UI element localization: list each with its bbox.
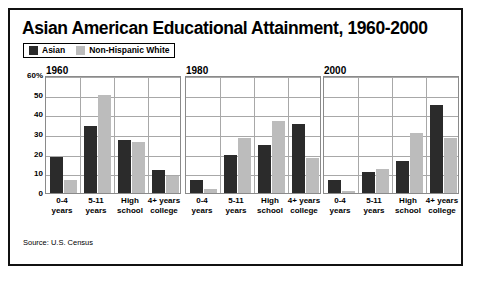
gridline-horizontal <box>46 156 180 157</box>
bar-2000-non-hispanic-white-3 <box>444 138 457 193</box>
gridline-vertical <box>288 77 289 193</box>
y-axis-tick: 50 <box>34 92 43 100</box>
x-axis-labels: 0-4years5-11yearsHighschool4+ yearscolle… <box>323 196 459 220</box>
bar-2000-asian-2 <box>396 161 409 193</box>
gridline-vertical <box>114 77 115 193</box>
y-axis-tick: 20 <box>34 151 43 159</box>
gridline-horizontal <box>46 77 180 78</box>
x-axis-tick-label: 4+ yearscollege <box>422 196 462 215</box>
gridline-vertical <box>220 77 221 193</box>
chart-panel-1960: 19600-4years5-11yearsHighschool4+ yearsc… <box>45 66 181 231</box>
x-axis-labels: 0-4years5-11yearsHighschool4+ yearscolle… <box>45 196 181 220</box>
plot-area <box>323 76 459 194</box>
y-axis-tick: 10 <box>34 170 43 178</box>
gridline-horizontal <box>324 77 458 78</box>
bar-1980-asian-2 <box>258 145 271 193</box>
legend-label: Asian <box>42 46 65 55</box>
x-axis-tick-label: 4+ yearscollege <box>144 196 184 215</box>
bar-1980-non-hispanic-white-3 <box>306 158 319 193</box>
y-axis-tick: 40 <box>34 111 43 119</box>
bar-1960-asian-3 <box>152 170 165 193</box>
gridline-horizontal <box>186 97 320 98</box>
gridline-horizontal <box>186 116 320 117</box>
gridline-vertical <box>392 77 393 193</box>
bar-1960-non-hispanic-white-3 <box>166 176 179 193</box>
y-axis-tick: 30 <box>34 131 43 139</box>
chart-panel-1980: 19800-4years5-11yearsHighschool4+ yearsc… <box>185 66 321 231</box>
bar-1980-asian-3 <box>292 124 305 193</box>
bar-1960-non-hispanic-white-1 <box>98 95 111 193</box>
bar-1960-non-hispanic-white-2 <box>132 142 145 193</box>
legend-entry: Non-Hispanic White <box>76 46 169 55</box>
bar-1980-non-hispanic-white-1 <box>238 138 251 193</box>
gridline-vertical <box>80 77 81 193</box>
chart-panels: 60%50403020100 19600-4years5-11yearsHigh… <box>23 66 453 231</box>
chart-legend: AsianNon-Hispanic White <box>23 43 175 58</box>
bar-2000-non-hispanic-white-0 <box>342 191 355 193</box>
plot-area <box>185 76 321 194</box>
bar-1980-non-hispanic-white-0 <box>204 189 217 193</box>
y-axis-tick: 60% <box>27 72 43 80</box>
bar-2000-asian-3 <box>430 105 443 193</box>
legend-label: Non-Hispanic White <box>89 46 169 55</box>
source-note: Source: U.S. Census <box>23 238 93 247</box>
bar-1960-asian-0 <box>50 157 63 193</box>
gridline-horizontal <box>186 77 320 78</box>
bar-2000-asian-1 <box>362 172 375 193</box>
legend-entry: Asian <box>29 46 65 55</box>
bar-1980-asian-1 <box>224 155 237 193</box>
x-axis-labels: 0-4years5-11yearsHighschool4+ yearscolle… <box>185 196 321 220</box>
gridline-horizontal <box>46 97 180 98</box>
bar-1980-asian-0 <box>190 180 203 193</box>
page-title: Asian American Educational Attainment, 1… <box>22 18 427 39</box>
gridline-horizontal <box>324 97 458 98</box>
bar-2000-non-hispanic-white-2 <box>410 133 423 193</box>
legend-swatch-asian <box>29 46 38 55</box>
chart-figure: Asian American Educational Attainment, 1… <box>8 8 463 266</box>
panel-year-label: 1960 <box>46 66 68 76</box>
y-axis: 60%50403020100 <box>23 76 45 194</box>
panel-year-label: 1980 <box>186 66 208 76</box>
bar-1960-asian-2 <box>118 140 131 193</box>
bar-1980-non-hispanic-white-2 <box>272 121 285 193</box>
chart-panel-2000: 20000-4years5-11yearsHighschool4+ yearsc… <box>323 66 459 231</box>
panel-year-label: 2000 <box>324 66 346 76</box>
gridline-horizontal <box>46 116 180 117</box>
bar-2000-non-hispanic-white-1 <box>376 169 389 193</box>
plot-area <box>45 76 181 194</box>
gridline-vertical <box>148 77 149 193</box>
bar-1960-non-hispanic-white-0 <box>64 180 77 193</box>
x-axis-tick-label: 4+ yearscollege <box>284 196 324 215</box>
gridline-vertical <box>426 77 427 193</box>
gridline-vertical <box>358 77 359 193</box>
gridline-vertical <box>254 77 255 193</box>
bar-1960-asian-1 <box>84 126 97 193</box>
bar-2000-asian-0 <box>328 180 341 193</box>
gridline-horizontal <box>46 136 180 137</box>
legend-swatch-non-hispanic-white <box>76 46 85 55</box>
